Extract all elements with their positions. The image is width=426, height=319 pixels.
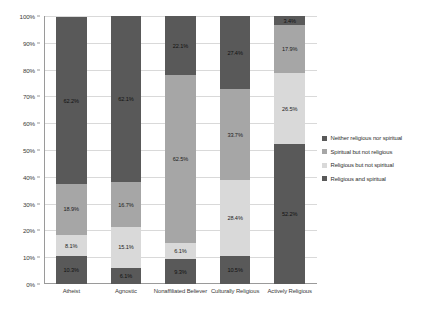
- bar-segment[interactable]: 26.5%: [274, 73, 305, 144]
- legend-swatch-icon: [322, 163, 327, 168]
- y-axis-tick-label: 20%: [23, 227, 35, 234]
- bar-segment-value-label: 28.4%: [227, 215, 242, 221]
- bar-segment[interactable]: 52.2%: [274, 144, 305, 284]
- bar-segment[interactable]: 62.1%: [111, 16, 142, 182]
- bar-segment[interactable]: 10.3%: [56, 256, 87, 284]
- y-axis-tick-label: 30%: [23, 200, 35, 207]
- bar-segment[interactable]: 62.2%: [56, 17, 87, 184]
- legend-item[interactable]: Religious and spiritual: [322, 175, 424, 183]
- bar-segment-value-label: 17.9%: [282, 46, 297, 52]
- bar-segment[interactable]: 3.4%: [274, 16, 305, 25]
- y-axis-tick-label: 90%: [23, 39, 35, 46]
- y-axis-tick-mark: [37, 16, 40, 17]
- bar-segment-value-label: 8.1%: [65, 243, 77, 249]
- bar-column[interactable]: 52.2%26.5%17.9%3.4%: [274, 16, 305, 284]
- bar-segment-value-label: 10.5%: [227, 267, 242, 273]
- y-axis-tick-mark: [37, 230, 40, 231]
- chart-legend: Neither religious nor spiritualSpiritual…: [322, 134, 424, 188]
- bar-segment-value-label: 26.5%: [282, 106, 297, 112]
- bar-segment-value-label: 10.3%: [64, 267, 79, 273]
- legend-swatch-icon: [322, 136, 327, 141]
- bar-segment-value-label: 33.7%: [227, 132, 242, 138]
- bar-segment-value-label: 3.4%: [284, 18, 296, 24]
- bar-column[interactable]: 10.5%28.4%33.7%27.4%: [220, 16, 251, 284]
- y-axis-tick-label: 0%: [26, 281, 35, 288]
- y-axis-tick-label: 50%: [23, 147, 35, 154]
- legend-item[interactable]: Religious but not spiritual: [322, 161, 424, 169]
- bar-segment-value-label: 15.1%: [118, 244, 133, 250]
- y-axis-tick-mark: [37, 284, 40, 285]
- bar-segment[interactable]: 27.4%: [220, 16, 251, 89]
- bar-segment[interactable]: 6.1%: [165, 243, 196, 259]
- bar-segment[interactable]: 16.7%: [111, 182, 142, 227]
- bar-segment[interactable]: 22.1%: [165, 16, 196, 75]
- bar-segment-value-label: 62.5%: [173, 156, 188, 162]
- legend-item-label: Religious but not spiritual: [331, 162, 394, 168]
- bar-segment-value-label: 9.3%: [174, 269, 186, 275]
- y-axis-tick-mark: [37, 257, 40, 258]
- y-axis-tick-label: 40%: [23, 173, 35, 180]
- bar-segment-value-label: 22.1%: [173, 43, 188, 49]
- bar-segment[interactable]: 62.5%: [165, 75, 196, 243]
- bar-segment[interactable]: 10.5%: [220, 256, 251, 284]
- legend-item-label: Spiritual but not religious: [331, 149, 393, 155]
- legend-item-label: Religious and spiritual: [331, 176, 386, 182]
- bar-segment[interactable]: 17.9%: [274, 25, 305, 73]
- bar-segment-value-label: 27.4%: [227, 50, 242, 56]
- y-axis-tick-mark: [37, 203, 40, 204]
- x-axis: AtheistAgnosticNonaffiliated BelieverCul…: [44, 286, 317, 302]
- x-axis-tick-label: Culturally Religious: [208, 288, 263, 294]
- legend-item[interactable]: Spiritual but not religious: [322, 148, 424, 156]
- y-axis-tick-label: 100%: [20, 13, 35, 20]
- y-axis-tick-label: 70%: [23, 93, 35, 100]
- x-axis-tick-label: Actively Religious: [262, 288, 317, 294]
- bar-segment[interactable]: 28.4%: [220, 180, 251, 256]
- bar-segment[interactable]: 6.1%: [111, 268, 142, 284]
- y-axis-tick-mark: [37, 150, 40, 151]
- legend-swatch-icon: [322, 149, 327, 154]
- legend-item[interactable]: Neither religious nor spiritual: [322, 134, 424, 142]
- bar-series-container: 10.3%8.1%18.9%62.2%6.1%15.1%16.7%62.1%9.…: [44, 16, 317, 284]
- x-axis-tick-label: Nonaffiliated Believer: [153, 288, 208, 294]
- bar-segment-value-label: 6.1%: [174, 248, 186, 254]
- bar-segment[interactable]: 8.1%: [56, 235, 87, 257]
- bar-segment-value-label: 62.2%: [64, 98, 79, 104]
- y-axis-tick-mark: [37, 176, 40, 177]
- x-axis-tick-label: Atheist: [44, 288, 99, 294]
- bar-segment[interactable]: 33.7%: [220, 89, 251, 179]
- bar-segment[interactable]: 15.1%: [111, 227, 142, 267]
- legend-swatch-icon: [322, 176, 327, 181]
- stacked-bar-chart: 0%10%20%30%40%50%60%70%80%90%100% 10.3%8…: [0, 0, 426, 319]
- bar-segment-value-label: 6.1%: [120, 273, 132, 279]
- plot-area: 10.3%8.1%18.9%62.2%6.1%15.1%16.7%62.1%9.…: [44, 16, 317, 284]
- bar-segment-value-label: 62.1%: [118, 96, 133, 102]
- bar-column[interactable]: 9.3%6.1%62.5%22.1%: [165, 16, 196, 284]
- y-axis: 0%10%20%30%40%50%60%70%80%90%100%: [0, 16, 40, 284]
- bar-column[interactable]: 6.1%15.1%16.7%62.1%: [111, 16, 142, 284]
- x-axis-tick-label: Agnostic: [99, 288, 154, 294]
- y-axis-tick-mark: [37, 42, 40, 43]
- y-axis-tick-label: 60%: [23, 120, 35, 127]
- bar-segment[interactable]: 18.9%: [56, 184, 87, 235]
- y-axis-tick-label: 80%: [23, 66, 35, 73]
- y-axis-tick-mark: [37, 123, 40, 124]
- bar-segment-value-label: 16.7%: [118, 202, 133, 208]
- legend-item-label: Neither religious nor spiritual: [331, 135, 403, 141]
- bar-segment-value-label: 52.2%: [282, 211, 297, 217]
- y-axis-tick-label: 10%: [23, 254, 35, 261]
- bar-segment[interactable]: 9.3%: [165, 259, 196, 284]
- bar-segment-value-label: 18.9%: [64, 206, 79, 212]
- y-axis-tick-mark: [37, 69, 40, 70]
- bar-column[interactable]: 10.3%8.1%18.9%62.2%: [56, 16, 87, 284]
- y-axis-tick-mark: [37, 96, 40, 97]
